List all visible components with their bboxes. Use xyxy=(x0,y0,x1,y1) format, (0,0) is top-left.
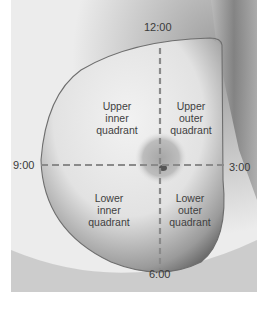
upper-inner-quadrant-label: Upper inner quadrant xyxy=(82,100,152,136)
diagram-graphic xyxy=(11,0,257,292)
label-9-00: 9:00 xyxy=(13,159,34,171)
upper-outer-quadrant-label: Upper outer quadrant xyxy=(156,100,226,136)
breast-photo xyxy=(11,0,257,292)
lower-outer-quadrant-label: Lower outer quadrant xyxy=(155,192,225,228)
label-3-00: 3:00 xyxy=(229,161,250,173)
label-12-00: 12:00 xyxy=(144,21,172,33)
lower-inner-quadrant-label: Lower inner quadrant xyxy=(74,192,144,228)
label-6-00: 6:00 xyxy=(149,268,170,280)
